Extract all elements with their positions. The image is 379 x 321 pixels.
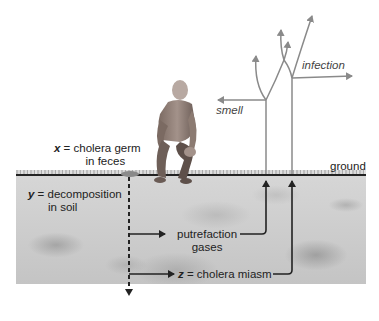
z-text: = cholera miasm (184, 268, 272, 280)
putrefaction-line1: putrefaction (177, 228, 237, 241)
x-text-line2: in feces (54, 155, 141, 168)
cholera-miasma-diagram: x = cholera germ in feces y = decomposit… (0, 0, 379, 321)
x-text-line1: = cholera germ (60, 142, 140, 154)
ground-label: ground (330, 160, 366, 173)
decomposition-label: y = decomposition in soil (28, 188, 122, 214)
smell-label: smell (216, 104, 243, 117)
air-flow-tree (218, 16, 352, 174)
cholera-germ-label: x = cholera germ in feces (54, 142, 141, 168)
miasm-rise-arrow (273, 181, 292, 274)
feces-patch (121, 171, 139, 177)
y-text-line2: in soil (28, 201, 122, 214)
putrefaction-line2: gases (177, 241, 237, 254)
putrefaction-rise-arrow (240, 181, 266, 234)
putrefaction-gases-label: putrefaction gases (177, 228, 237, 254)
infection-label: infection (302, 59, 345, 72)
y-text-line1: = decomposition (34, 188, 121, 200)
cholera-miasm-label: z = cholera miasm (178, 268, 272, 281)
